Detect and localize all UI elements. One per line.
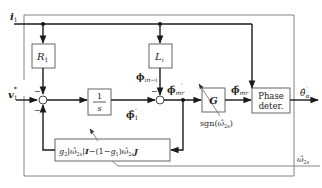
summing-junction-2: [156, 96, 164, 104]
sum1-bottom-sign: −: [34, 106, 41, 115]
phi-mr-label: ϕ̂mr: [231, 85, 249, 96]
sum2-top-sign: −: [151, 87, 158, 96]
current-label: i1: [10, 11, 18, 23]
omega-input-label: ω̂2s: [297, 155, 310, 165]
theta-output-label: θ̂α′: [300, 85, 309, 99]
feedback-to-sum1: [43, 105, 55, 150]
sum1-top-sign: −: [34, 87, 41, 96]
voltage-ref-label: v1*: [8, 85, 18, 101]
feedback-tap-line: [171, 100, 183, 150]
summing-junction-1: [39, 96, 47, 104]
phase-label-line2: deter.: [259, 101, 284, 111]
g-label: G: [209, 95, 218, 106]
omega-input-line: [112, 161, 320, 166]
phi-tilde-label: ϕ̃1′: [126, 107, 138, 121]
phase-label-line1: Phase: [258, 91, 284, 101]
feedback-expression: g2|ω̂2s|I−(1−g1)ω̂2sJ: [59, 146, 139, 157]
integrator-numerator: 1: [97, 92, 102, 101]
block-diagram: i1 v1* R1 Li ϕin−i 1 s ϕ̃1′ ϕ̂mr′ G sgn(…: [0, 0, 322, 188]
sgn-label: sgn(ω̂2s): [200, 119, 233, 129]
phi-mr-prime-label: ϕ̂mr′: [167, 82, 185, 96]
phi-in-label: ϕin−i: [136, 72, 157, 83]
integrator-denominator: s: [97, 104, 101, 113]
